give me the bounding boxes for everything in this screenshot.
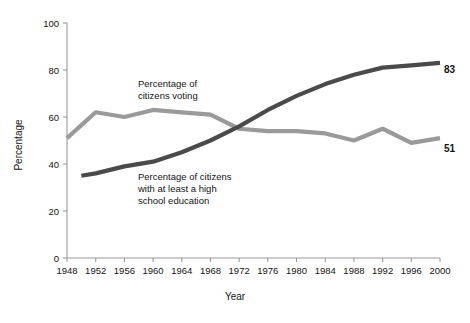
series-line-0 — [67, 110, 440, 143]
y-tick-label: 20 — [48, 206, 59, 217]
x-tick-label: 1948 — [56, 265, 77, 276]
y-axis-title: Percentage — [13, 119, 24, 171]
y-tick-label: 0 — [54, 253, 59, 264]
x-tick-label: 1972 — [229, 265, 250, 276]
x-axis-title: Year — [225, 291, 246, 302]
series-layer — [67, 63, 440, 176]
x-tick-label: 1956 — [114, 265, 135, 276]
end-label-layer: 8351 — [444, 64, 456, 154]
x-tick-label: 1996 — [401, 265, 422, 276]
x-tick-label: 1964 — [171, 265, 192, 276]
x-tick-label: 1992 — [372, 265, 393, 276]
voting-annotation: Percentage ofcitizens voting — [138, 78, 198, 101]
x-tick-label: 1952 — [85, 265, 106, 276]
x-tick-label: 1988 — [343, 265, 364, 276]
chart-container: 020406080100 194819521956196019641968197… — [0, 0, 470, 323]
x-tick-label: 1984 — [315, 265, 336, 276]
x-tick-label: 2000 — [429, 265, 450, 276]
education-annotation: Percentage of citizenswith at least a hi… — [137, 171, 232, 206]
voting-end-label: 51 — [444, 143, 456, 154]
x-tick-label: 1976 — [257, 265, 278, 276]
line-chart: 020406080100 194819521956196019641968197… — [0, 0, 470, 323]
y-tick-label: 60 — [48, 112, 59, 123]
x-tick-label: 1968 — [200, 265, 221, 276]
x-tick-label: 1960 — [143, 265, 164, 276]
y-tick-label: 40 — [48, 159, 59, 170]
y-axis: 020406080100 — [43, 18, 67, 264]
y-tick-label: 100 — [43, 18, 59, 29]
education-end-label: 83 — [444, 64, 456, 75]
x-axis: 1948195219561960196419681972197619801984… — [56, 258, 450, 276]
y-tick-label: 80 — [48, 65, 59, 76]
x-tick-label: 1980 — [286, 265, 307, 276]
series-line-1 — [81, 63, 440, 176]
annotation-layer: Percentage ofcitizens votingPercentage o… — [137, 78, 232, 206]
